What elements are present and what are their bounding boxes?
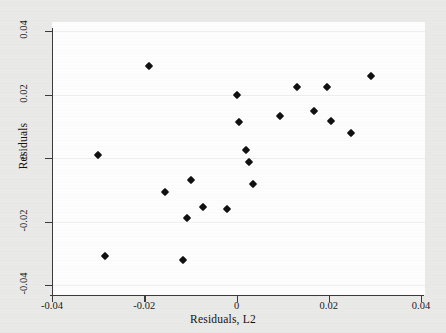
y-tick-label: -0.04: [18, 264, 29, 304]
x-tick-label: -0.04: [22, 300, 82, 311]
gridline-y: [52, 285, 425, 286]
y-axis-title: Residuals: [17, 101, 29, 191]
y-tick-mark: [45, 31, 52, 32]
gridline-y: [52, 222, 425, 223]
y-tick-label: 0.04: [18, 10, 29, 50]
gridline-y: [52, 158, 425, 159]
y-tick-mark: [45, 95, 52, 96]
scatter-plot-figure: 0.040.020-0.02-0.04 -0.04-0.0200.020.04 …: [0, 0, 446, 333]
x-tick-label: -0.02: [114, 300, 174, 311]
gridline-y: [52, 31, 425, 32]
y-tick-mark: [45, 158, 52, 159]
x-tick-label: 0: [207, 300, 267, 311]
y-tick-mark: [45, 222, 52, 223]
x-tick-label: 0.04: [391, 300, 446, 311]
x-tick-label: 0.02: [299, 300, 359, 311]
y-axis-line: [52, 28, 53, 298]
y-tick-label: -0.02: [18, 200, 29, 240]
y-tick-mark: [45, 285, 52, 286]
x-axis-title: Residuals, L2: [0, 313, 446, 325]
